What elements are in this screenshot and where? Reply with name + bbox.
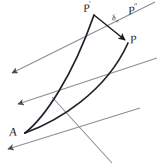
label-p-prime: P′ [82, 0, 92, 14]
guide-line-3 [8, 108, 140, 149]
figure-container: P′ P″ P δn A [0, 0, 161, 166]
figure-drawing [0, 0, 161, 166]
label-a: A [8, 126, 17, 139]
guide-line-4 [52, 97, 112, 163]
point-a-marker [24, 132, 26, 134]
left-trajectory-curve [25, 15, 94, 133]
guide-line-group [8, 2, 157, 163]
label-p: P [129, 34, 137, 46]
trajectory-group [25, 15, 128, 133]
label-p-double-prime: P″ [127, 2, 139, 16]
